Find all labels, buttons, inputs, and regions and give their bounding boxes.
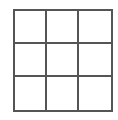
tic-tac-toe-board xyxy=(13,9,113,112)
cell-0-0[interactable] xyxy=(15,11,47,44)
cell-0-1[interactable] xyxy=(47,11,79,44)
cell-2-1[interactable] xyxy=(47,77,79,110)
cell-0-2[interactable] xyxy=(79,11,111,44)
cell-1-0[interactable] xyxy=(15,44,47,77)
cell-2-2[interactable] xyxy=(79,77,111,110)
cell-1-2[interactable] xyxy=(79,44,111,77)
cell-2-0[interactable] xyxy=(15,77,47,110)
cell-1-1[interactable] xyxy=(47,44,79,77)
